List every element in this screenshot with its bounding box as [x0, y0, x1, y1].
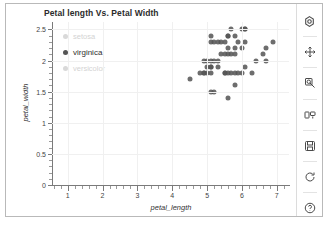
gridline-vertical	[137, 22, 138, 185]
x-tick-label: 4	[170, 192, 174, 199]
x-tick-label: 6	[240, 192, 244, 199]
x-axis-title: petal_length	[151, 203, 192, 212]
refresh-icon[interactable]	[301, 169, 319, 185]
gridline-vertical	[172, 22, 173, 185]
home-icon[interactable]	[301, 13, 319, 29]
x-tick-minor	[228, 186, 229, 189]
y-tick-minor	[49, 129, 52, 130]
pan-move-icon[interactable]	[301, 44, 319, 60]
x-tick-label: 1	[66, 192, 70, 199]
legend-item-setosa[interactable]: setosa	[63, 30, 133, 43]
data-point	[232, 52, 237, 57]
toolbar-divider	[303, 99, 317, 100]
legend[interactable]: setosa virginica versicolor	[63, 30, 133, 78]
data-point	[219, 52, 224, 57]
toolbar-divider	[303, 130, 317, 131]
x-tick-minor	[110, 186, 111, 189]
data-point	[226, 46, 231, 51]
y-tick-label: 1.5	[36, 88, 46, 95]
x-tick	[137, 186, 138, 191]
y-tick-minor	[49, 148, 52, 149]
y-tick-label: 2	[42, 57, 46, 64]
x-tick-label: 2	[101, 192, 105, 199]
toolbar-divider	[303, 67, 317, 68]
toolbar-divider	[303, 192, 317, 193]
data-point	[260, 52, 265, 57]
data-point	[232, 46, 237, 51]
y-tick-minor	[49, 67, 52, 68]
data-point	[208, 33, 213, 38]
save-floppy-icon[interactable]	[301, 138, 319, 154]
data-point	[187, 77, 192, 82]
gridline-horizontal	[52, 29, 289, 30]
y-tick-minor	[49, 160, 52, 161]
y-tick-minor	[49, 36, 52, 37]
data-point	[215, 64, 220, 69]
help-icon[interactable]	[301, 200, 319, 216]
data-point	[226, 33, 231, 38]
x-tick-minor	[235, 186, 236, 189]
y-axis-line	[52, 22, 53, 186]
y-tick-minor	[49, 85, 52, 86]
configure-subplots-icon[interactable]	[301, 106, 319, 122]
y-tick-label: 0.5	[36, 150, 46, 157]
y-tick-minor	[49, 48, 52, 49]
y-tick-minor	[49, 117, 52, 118]
figure-window: Petal length Vs. Petal Width petal_lengt…	[0, 0, 328, 226]
legend-label: versicolor	[73, 65, 105, 73]
data-point	[222, 71, 227, 76]
x-tick	[68, 186, 69, 191]
x-tick-minor	[82, 186, 83, 189]
data-point	[232, 33, 237, 38]
y-tick-minor	[49, 73, 52, 74]
y-tick-minor	[49, 104, 52, 105]
y-tick-minor	[49, 135, 52, 136]
y-tick-minor	[49, 79, 52, 80]
x-tick-minor	[165, 186, 166, 189]
x-tick-minor	[123, 186, 124, 189]
x-tick-minor	[256, 186, 257, 189]
toolbar-divider	[303, 36, 317, 37]
x-tick	[172, 186, 173, 191]
y-tick-label: 1	[42, 119, 46, 126]
gridline-horizontal	[52, 123, 289, 124]
legend-item-virginica[interactable]: virginica	[63, 46, 133, 59]
data-point	[222, 39, 227, 44]
data-point	[250, 71, 255, 76]
x-tick-minor	[151, 186, 152, 189]
x-tick-minor	[214, 186, 215, 189]
x-tick-minor	[200, 186, 201, 189]
legend-label: virginica	[73, 49, 102, 57]
legend-item-versicolor[interactable]: versicolor	[63, 62, 133, 75]
x-tick-minor	[284, 186, 285, 189]
x-tick-label: 3	[135, 192, 139, 199]
y-tick-minor	[49, 54, 52, 55]
data-point	[226, 95, 231, 100]
x-tick-minor	[193, 186, 194, 189]
gridline-horizontal	[52, 154, 289, 155]
x-tick-minor	[249, 186, 250, 189]
x-tick-minor	[221, 186, 222, 189]
x-tick	[277, 186, 278, 191]
x-tick	[242, 186, 243, 191]
zoom-magnifier-icon[interactable]	[301, 75, 319, 91]
data-point	[243, 39, 248, 44]
x-tick-label: 5	[205, 192, 209, 199]
data-point	[243, 64, 248, 69]
x-tick-minor	[263, 186, 264, 189]
data-point	[232, 83, 237, 88]
x-tick-minor	[130, 186, 131, 189]
x-tick-minor	[144, 186, 145, 189]
gridline-vertical	[103, 22, 104, 185]
gridline-vertical	[242, 22, 243, 185]
legend-label: setosa	[73, 33, 95, 41]
data-point	[271, 39, 276, 44]
data-point	[264, 46, 269, 51]
chart-title: Petal length Vs. Petal Width	[44, 8, 159, 18]
x-tick	[207, 186, 208, 191]
y-tick-minor	[49, 42, 52, 43]
figure-toolbar	[296, 4, 322, 216]
x-tick-minor	[75, 186, 76, 189]
y-tick-minor	[49, 141, 52, 142]
gridline-horizontal	[52, 61, 289, 62]
